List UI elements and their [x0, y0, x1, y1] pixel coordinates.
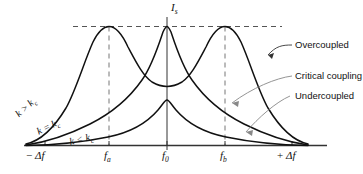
x-tick-label-f-b: fb: [220, 150, 227, 164]
callout-critical-coupling: Critical coupling: [295, 71, 362, 81]
leader-overcoupled: [268, 45, 292, 55]
leader-undercoupled: [246, 96, 290, 132]
plot-canvas: [0, 0, 363, 174]
x-tick-label-f-0: f0: [162, 150, 169, 164]
y-axis-label: Is: [171, 2, 178, 16]
x-tick-label-neg-delta-f: − Δf: [26, 150, 44, 161]
x-tick-label-pos-delta-f: + Δf: [277, 150, 295, 161]
callout-undercoupled: Undercoupled: [295, 91, 354, 101]
x-tick-label-f-a: fa: [104, 150, 111, 164]
leader-critical-coupling: [232, 76, 292, 103]
resonance-coupling-figure: Is − Δf fa f0 fb + Δf k > kc k = kc k < …: [0, 0, 363, 174]
callout-overcoupled: Overcoupled: [295, 40, 349, 50]
